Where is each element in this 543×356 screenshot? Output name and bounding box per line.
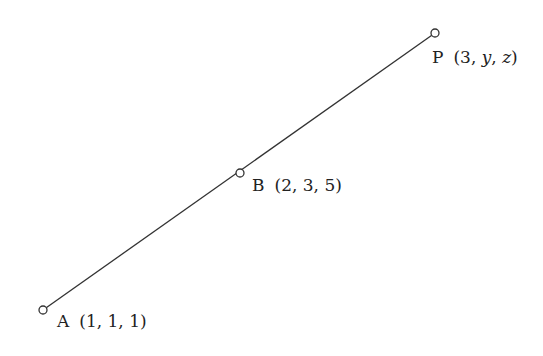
point-P-coords: (3, y, z) [453,47,517,67]
point-P-name: P [432,47,443,67]
point-A-coords: (1, 1, 1) [79,311,146,331]
point-P-marker [431,29,439,37]
point-A-name: A [57,311,69,331]
point-P-label: P(3, y, z) [432,49,518,66]
point-B-label: B(2, 3, 5) [252,177,342,194]
point-B-marker [236,169,244,177]
point-B-name: B [252,175,265,195]
point-A-label: A(1, 1, 1) [57,313,147,330]
point-B-coords: (2, 3, 5) [275,175,342,195]
point-A-marker [39,306,47,314]
